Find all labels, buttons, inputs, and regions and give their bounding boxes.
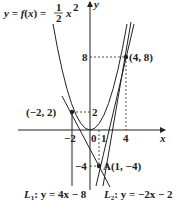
frac-den: 2 [56,12,62,24]
axis-y-label: y [92,0,99,10]
tick-y8: 8 [82,51,88,63]
point-A [97,164,101,168]
parabola-tangent-diagram: y = f(x) = 1 2 x 2 y x 8 2 −4 −2 0 1 4 (… [0,0,184,218]
point-label-A: A(1, −4) [103,160,141,173]
axis-x-label: x [159,132,166,144]
func-exp: 2 [73,1,79,13]
tick-yneg4: −4 [75,160,87,172]
tick-xneg2: −2 [64,132,76,144]
label-L1: L1: y = 4x − 8 [23,188,87,202]
svg-text:y = f(x) =: y = f(x) = [2,7,46,20]
point-label-4-8: (4, 8) [129,51,153,64]
tick-x1: 1 [101,132,107,144]
point-neg2-2 [70,110,74,114]
point-4-8 [124,55,128,59]
tick-x0: 0 [91,132,97,144]
tick-x4: 4 [123,132,129,144]
point-label-neg2-2: (−2, 2) [26,106,56,119]
tick-y2: 2 [92,106,98,118]
label-L2: L2: y = −2x − 2 [103,188,173,202]
func-x: x [65,7,72,19]
